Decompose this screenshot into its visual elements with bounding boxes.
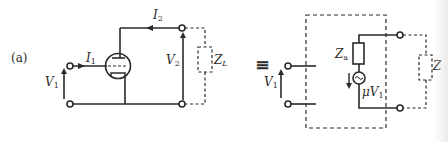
eq-output-terminal-top — [397, 32, 403, 38]
load-impedance-icon — [185, 28, 212, 104]
equivalence-symbol: ≡ — [255, 54, 270, 75]
v1-label: V1 — [45, 75, 59, 90]
page-edge-shadow — [434, 0, 448, 142]
input-terminal-top — [67, 63, 73, 69]
left-circuit — [64, 25, 212, 107]
za-label: Za — [334, 47, 348, 62]
equivalent-box — [306, 15, 386, 128]
i2-arrow-icon — [146, 25, 153, 31]
i2-label: I2 — [152, 8, 163, 23]
circuit-diagram: (a) — [0, 0, 448, 142]
eq-top-wire — [359, 35, 397, 43]
right-circuit — [281, 15, 432, 128]
zl-label: ZL — [213, 53, 228, 68]
za-impedance-icon — [353, 43, 364, 64]
input-terminal-bottom — [67, 101, 73, 107]
mu-v1-label: μV1 — [362, 85, 384, 100]
triode-tube-icon — [106, 28, 131, 104]
panel-label: (a) — [11, 51, 28, 65]
output-terminal-top — [179, 25, 185, 31]
i1-arrow-icon — [78, 63, 85, 69]
voltage-source-icon — [353, 72, 365, 84]
eq-output-terminal-bottom — [397, 105, 403, 111]
eq-input-terminal-top — [285, 63, 291, 69]
eq-input-terminal-bottom — [285, 101, 291, 107]
eq-v1-label: V1 — [264, 75, 278, 90]
v2-label: V2 — [166, 53, 180, 68]
eq-load-impedance-icon — [403, 35, 432, 108]
output-terminal-bottom — [179, 101, 185, 107]
i1-label: I1 — [85, 51, 96, 66]
